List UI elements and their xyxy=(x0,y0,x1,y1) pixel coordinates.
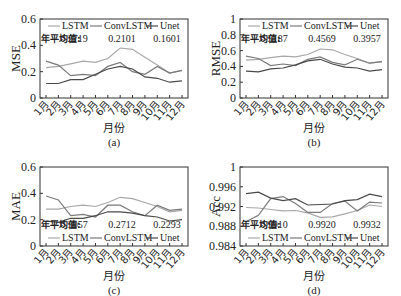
annual-mean-value: 0.2719 xyxy=(60,33,88,44)
x-axis-label: 月份 xyxy=(103,122,125,135)
chart-svg-a: 00.20.40.6MSE1月2月3月4月5月6月7月8月9月10月11月12月… xyxy=(0,0,200,148)
y-tick-label: 1 xyxy=(230,12,236,26)
annual-mean-value: 0.5187 xyxy=(260,33,288,44)
series-line-lstm xyxy=(246,205,382,217)
y-tick-label: 0.988 xyxy=(209,219,236,233)
x-axis-label: 月份 xyxy=(303,270,325,283)
chart-panel-c: 00.20.40.6MAE1月2月3月4月5月6月7月8月9月10月11月12月… xyxy=(0,148,200,296)
chart-panel-b: 00.20.40.60.81RMSE1月2月3月4月5月6月7月8月9月10月1… xyxy=(200,0,400,148)
y-axis-label: Acc xyxy=(208,196,223,217)
y-axis-label: MSE xyxy=(8,45,23,72)
chart-panel-a: 00.20.40.6MSE1月2月3月4月5月6月7月8月9月10月11月12月… xyxy=(0,0,200,148)
y-axis-label: MAE xyxy=(8,192,23,221)
y-tick-label: 0.8 xyxy=(221,28,236,42)
annual-mean-value: 0.9920 xyxy=(308,219,336,230)
legend-label: LSTM xyxy=(62,232,89,243)
chart-svg-c: 00.20.40.6MAE1月2月3月4月5月6月7月8月9月10月11月12月… xyxy=(0,148,200,296)
chart-caption: (c) xyxy=(108,284,121,296)
x-axis-label: 月份 xyxy=(303,122,325,135)
y-tick-label: 0 xyxy=(30,239,36,253)
annual-mean-value: 0.9910 xyxy=(260,219,288,230)
legend-label: Unet xyxy=(160,232,180,243)
y-tick-label: 0.4 xyxy=(221,59,236,73)
y-tick-label: 0.2 xyxy=(21,213,36,227)
y-tick-label: 0.6 xyxy=(21,160,36,174)
chart-svg-d: 0.9840.9880.9920.9961Acc1月2月3月4月5月6月7月8月… xyxy=(200,148,400,296)
legend-label: Unet xyxy=(360,20,380,31)
chart-caption: (b) xyxy=(308,136,321,148)
y-tick-label: 0.984 xyxy=(209,239,236,253)
x-axis-label: 月份 xyxy=(103,270,125,283)
legend-label: ConvLSTM xyxy=(104,232,152,243)
legend-label: LSTM xyxy=(62,20,89,31)
annual-mean-value: 0.2293 xyxy=(153,219,181,230)
series-line-unet xyxy=(246,192,382,205)
chart-panel-d: 0.9840.9880.9920.9961Acc1月2月3月4月5月6月7月8月… xyxy=(200,148,400,296)
legend-label: LSTM xyxy=(262,232,289,243)
y-tick-label: 1 xyxy=(230,160,236,174)
series-line-convlstm xyxy=(46,61,182,76)
legend-label: Unet xyxy=(160,20,180,31)
chart-caption: (a) xyxy=(108,136,121,148)
y-tick-label: 0 xyxy=(30,91,36,105)
annual-mean-value: 0.4569 xyxy=(308,33,336,44)
chart-caption: (d) xyxy=(308,284,321,296)
annual-mean-value: 0.3957 xyxy=(353,33,381,44)
y-tick-label: 0 xyxy=(230,91,236,105)
y-axis-label: RMSE xyxy=(208,41,223,76)
legend-label: ConvLSTM xyxy=(304,20,352,31)
y-tick-label: 0.6 xyxy=(21,12,36,26)
legend-label: LSTM xyxy=(262,20,289,31)
y-tick-label: 0.6 xyxy=(221,44,236,58)
y-tick-label: 0.4 xyxy=(21,38,36,52)
annual-mean-value: 0.2101 xyxy=(108,33,136,44)
y-tick-label: 0.996 xyxy=(209,180,236,194)
annual-mean-value: 0.2712 xyxy=(108,219,136,230)
y-tick-label: 0.4 xyxy=(21,186,36,200)
legend-label: Unet xyxy=(360,232,380,243)
series-line-convlstm xyxy=(246,56,382,66)
annual-mean-value: 0.3057 xyxy=(60,219,88,230)
series-line-convlstm xyxy=(46,196,182,217)
y-tick-label: 0.2 xyxy=(21,65,36,79)
chart-svg-b: 00.20.40.60.81RMSE1月2月3月4月5月6月7月8月9月10月1… xyxy=(200,0,400,148)
legend-label: ConvLSTM xyxy=(304,232,352,243)
y-tick-label: 0.2 xyxy=(221,75,236,89)
annual-mean-value: 0.9932 xyxy=(353,219,381,230)
annual-mean-value: 0.1601 xyxy=(153,33,181,44)
legend-label: ConvLSTM xyxy=(104,20,152,31)
